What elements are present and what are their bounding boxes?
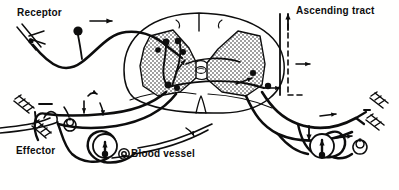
blood-vessel-ring [119,149,129,159]
spiral-nerve-ending [64,117,76,131]
spinal-reflex-arc-illustration [0,0,399,190]
label-ascending-tract: Ascending tract [296,6,375,16]
free-nerve-ending [17,24,45,50]
ventral-median-fissure [196,96,206,113]
ganglion-cell-body-right [310,134,334,158]
label-blood-vessel: Blood vessel [131,149,195,159]
spiral-nerve-ending-right [353,138,367,154]
label-effector: Effector [16,146,55,156]
label-receptor: Receptor [17,8,62,18]
striated-muscle-ending-right [364,92,388,130]
ganglion-cell-body-left [93,134,117,158]
figure-canvas: Receptor Ascending tract Effector Blood … [0,0,399,190]
